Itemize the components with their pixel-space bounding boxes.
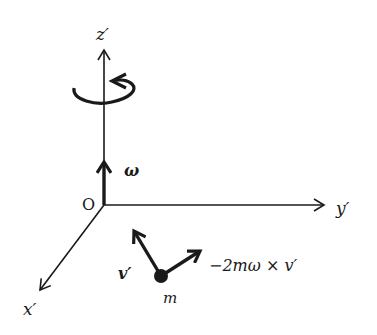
origin-label: O	[82, 195, 95, 214]
z-axis-label: z′	[95, 24, 109, 44]
x-axis-label: x′	[23, 299, 37, 319]
y-axis-label: y′	[335, 198, 350, 218]
coriolis-diagram: z′ y′ x′ O ω m v′ −2mω × v′	[0, 0, 377, 335]
omega-label: ω	[124, 161, 139, 180]
velocity-label: v′	[118, 264, 132, 283]
coriolis-force-label: −2mω × v′	[209, 256, 297, 275]
particle-label: m	[163, 289, 177, 307]
x-axis	[40, 205, 104, 290]
coriolis-force-vector	[161, 251, 200, 276]
velocity-vector	[134, 231, 161, 276]
